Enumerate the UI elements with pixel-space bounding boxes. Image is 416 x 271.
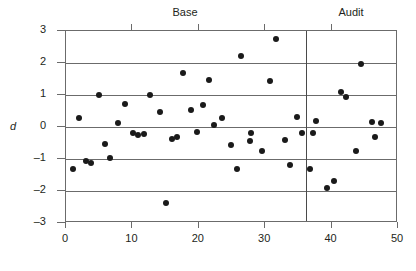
- data-point: [76, 115, 82, 121]
- plot-area: [65, 30, 397, 222]
- data-point: [353, 148, 359, 154]
- y-tick-1: [57, 94, 65, 95]
- data-point: [122, 101, 128, 107]
- x-tick-50: [397, 222, 398, 228]
- y-tick-label: 2: [0, 56, 46, 67]
- data-point: [135, 132, 141, 138]
- data-point: [141, 131, 147, 137]
- data-point: [294, 114, 300, 120]
- data-point: [324, 185, 330, 191]
- x-tick-40: [331, 222, 332, 228]
- gridline-y--2: [66, 191, 396, 192]
- data-point: [180, 70, 186, 76]
- y-tick-0: [57, 126, 65, 127]
- data-point: [287, 162, 293, 168]
- data-point: [299, 130, 305, 136]
- data-point: [88, 160, 94, 166]
- data-point: [228, 142, 234, 148]
- data-point: [174, 134, 180, 140]
- data-point: [369, 119, 375, 125]
- y-tick-2: [57, 62, 65, 63]
- data-point: [310, 130, 316, 136]
- data-point: [96, 92, 102, 98]
- data-point: [206, 77, 212, 83]
- y-tick--3: [57, 222, 65, 223]
- data-point: [331, 178, 337, 184]
- x-tick-label: 50: [377, 232, 416, 244]
- data-point: [282, 137, 288, 143]
- data-point: [234, 166, 240, 172]
- x-tick-label: 30: [244, 232, 284, 244]
- y-tick-label: –3: [0, 216, 46, 227]
- data-point: [247, 138, 253, 144]
- data-point: [343, 94, 349, 100]
- data-point: [273, 36, 279, 42]
- data-point: [157, 109, 163, 115]
- data-point: [211, 122, 217, 128]
- data-point: [378, 120, 384, 126]
- x-tick-label: 10: [111, 232, 151, 244]
- y-tick-label: –2: [0, 184, 46, 195]
- data-point: [358, 61, 364, 67]
- y-tick-label: –1: [0, 152, 46, 163]
- data-point: [259, 148, 265, 154]
- y-tick-label: 1: [0, 88, 46, 99]
- y-tick-label: 3: [0, 24, 46, 35]
- y-tick--1: [57, 158, 65, 159]
- data-point: [102, 141, 108, 147]
- scatter-chart-figure: d 3210–1–2–3 Base Audit 01020304050: [0, 0, 416, 271]
- data-point: [147, 92, 153, 98]
- x-tick-10: [131, 222, 132, 228]
- data-point: [307, 166, 313, 172]
- gridline-y-0: [66, 127, 396, 128]
- x-tick-20: [198, 222, 199, 228]
- gridline-y-2: [66, 63, 396, 64]
- data-point: [70, 166, 76, 172]
- data-point: [219, 115, 225, 121]
- data-point: [200, 102, 206, 108]
- y-tick--2: [57, 190, 65, 191]
- data-point: [107, 155, 113, 161]
- group-heading-audit: Audit: [291, 6, 411, 18]
- y-tick-3: [57, 30, 65, 31]
- x-tick-label: 40: [311, 232, 351, 244]
- y-tick-label: 0: [0, 120, 46, 131]
- group-divider-line-0: [306, 31, 307, 221]
- data-point: [115, 120, 121, 126]
- data-point: [248, 130, 254, 136]
- x-tick-0: [65, 222, 66, 228]
- x-tick-label: 20: [178, 232, 218, 244]
- data-point: [372, 134, 378, 140]
- data-point: [313, 118, 319, 124]
- x-tick-30: [264, 222, 265, 228]
- data-point: [267, 78, 273, 84]
- group-heading-base: Base: [125, 6, 245, 18]
- data-point: [238, 53, 244, 59]
- x-tick-label: 0: [45, 232, 85, 244]
- data-point: [194, 129, 200, 135]
- data-point: [163, 200, 169, 206]
- gridline-y--1: [66, 159, 396, 160]
- data-point: [188, 107, 194, 113]
